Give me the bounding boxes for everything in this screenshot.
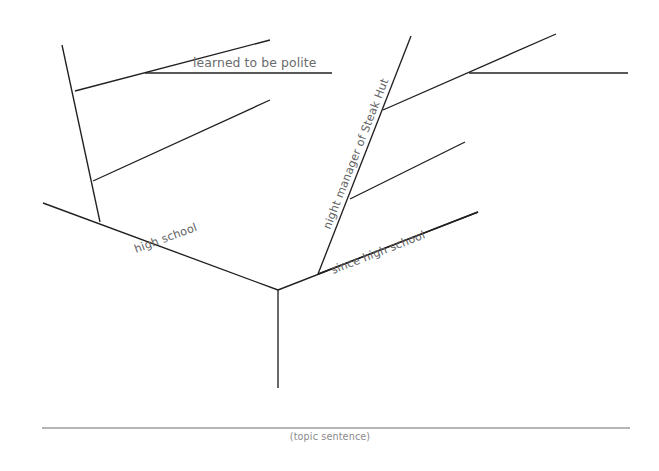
night-manager-of-steak-hut-label: night manager of Steak Hut: [321, 76, 392, 231]
left-sub-branch-upper-label: learned to be polite: [193, 55, 316, 70]
left-sub-branch-lower-line: [93, 100, 270, 181]
right-sub-branch-middle-line: [350, 142, 465, 199]
idea-tree-page: learned to be polite high school since h…: [0, 0, 659, 471]
right-sub-branch-upper-line: [383, 34, 556, 110]
since-high-school-label: since high school: [329, 228, 427, 276]
idea-tree-canvas: learned to be polite high school since h…: [0, 0, 659, 471]
high-school-vertical-stem-line: [62, 45, 100, 222]
topic-sentence-caption: (topic sentence): [290, 431, 371, 442]
high-school-label: high school: [133, 221, 199, 256]
